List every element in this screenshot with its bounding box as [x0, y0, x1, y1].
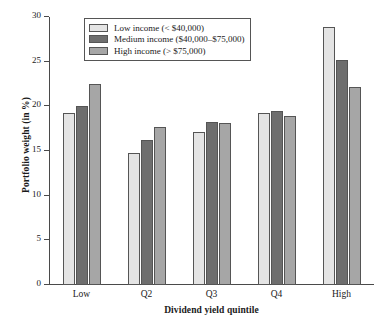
bar — [336, 60, 348, 285]
legend-swatch — [89, 24, 108, 32]
bar — [89, 84, 101, 285]
bar — [349, 87, 361, 285]
legend-label: High income (> $75,000) — [114, 46, 206, 56]
y-axis-tick-label: 20 — [32, 99, 41, 109]
legend-item: High income (> $75,000) — [89, 45, 244, 57]
bar — [271, 111, 283, 285]
bar — [284, 116, 296, 285]
x-axis-tick-label: Q2 — [112, 289, 182, 299]
bar — [141, 140, 153, 285]
legend: Low income (< $40,000)Medium income ($40… — [84, 18, 251, 61]
legend-swatch — [89, 35, 108, 43]
legend-swatch — [89, 47, 108, 55]
bar — [63, 113, 75, 285]
bar — [206, 122, 218, 285]
y-axis-tick-label: 5 — [37, 233, 42, 243]
y-axis-tick-label: 25 — [32, 55, 41, 65]
bar — [128, 153, 140, 285]
y-axis-tick-label: 15 — [32, 144, 41, 154]
bar — [323, 27, 335, 285]
y-axis-tick-label: 30 — [32, 10, 41, 20]
bar — [219, 123, 231, 285]
x-axis-tick-label: High — [307, 289, 377, 299]
x-axis-tick-label: Low — [47, 289, 117, 299]
bar — [258, 113, 270, 285]
bar — [154, 127, 166, 285]
y-axis-tick-label: 10 — [32, 189, 41, 199]
x-axis-tick-label: Q4 — [242, 289, 312, 299]
legend-label: Low income (< $40,000) — [114, 23, 204, 33]
legend-item: Medium income ($40,000–$75,000) — [89, 34, 244, 46]
bar-chart-figure: Portfolio weight (in %) 051015202530 Low… — [0, 0, 384, 328]
legend-label: Medium income ($40,000–$75,000) — [114, 34, 244, 44]
x-axis-tick-label: Q3 — [177, 289, 247, 299]
bar-group — [309, 17, 374, 285]
y-axis-tick-label: 0 — [37, 278, 42, 288]
bar — [193, 132, 205, 285]
x-axis-title: Dividend yield quintile — [49, 305, 374, 315]
y-axis-title: Portfolio weight (in %) — [21, 65, 31, 225]
bar-group — [244, 17, 309, 285]
bar — [76, 106, 88, 285]
legend-item: Low income (< $40,000) — [89, 22, 244, 34]
